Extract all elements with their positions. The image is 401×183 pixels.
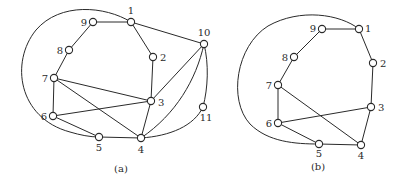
node-5 — [95, 133, 102, 140]
node-6 — [49, 112, 56, 119]
edge-10-11 — [203, 44, 207, 107]
node-3 — [367, 103, 374, 110]
node-label-11: 11 — [200, 112, 213, 123]
node-7 — [50, 74, 57, 81]
graph-panel-a: 1234567891011 (a) — [22, 5, 213, 174]
node-8 — [65, 46, 72, 53]
node-label-3: 3 — [158, 97, 164, 108]
edge-1-2 — [359, 29, 373, 63]
node-10 — [200, 40, 207, 47]
edges-b — [238, 15, 373, 145]
node-label-6: 6 — [41, 111, 47, 122]
node-label-2: 2 — [380, 58, 386, 69]
node-3 — [147, 97, 154, 104]
node-1 — [355, 25, 362, 32]
node-labels-b: 123456789 — [266, 23, 387, 161]
edge-1-10 — [131, 22, 204, 44]
nodes-a — [49, 18, 207, 141]
node-label-8: 8 — [57, 45, 63, 56]
node-label-5: 5 — [96, 142, 102, 153]
edge-3-4 — [141, 101, 151, 138]
edge-1-5 — [238, 15, 359, 144]
graph-figure: 1234567891011 (a) 123456789 (b) — [0, 0, 401, 183]
node-2 — [149, 53, 156, 60]
edge-6-3 — [53, 101, 151, 116]
edge-9-8 — [294, 29, 322, 57]
edge-6-3 — [278, 107, 371, 123]
node-label-1: 1 — [128, 5, 134, 16]
edge-7-4 — [278, 85, 361, 145]
edge-3-4 — [361, 107, 371, 145]
node-2 — [369, 59, 376, 66]
graph-panel-b: 123456789 (b) — [238, 15, 387, 172]
node-label-10: 10 — [198, 27, 211, 38]
node-label-4: 4 — [358, 150, 364, 161]
node-label-2: 2 — [160, 52, 166, 63]
nodes-b — [274, 25, 376, 148]
edge-5-4 — [319, 144, 361, 145]
edge-11-4 — [141, 107, 203, 138]
node-4 — [357, 141, 364, 148]
node-8 — [290, 53, 297, 60]
node-label-7: 7 — [266, 80, 272, 91]
edge-7-4 — [54, 78, 141, 138]
edges-a — [22, 9, 208, 138]
node-label-1: 1 — [365, 23, 371, 34]
node-label-6: 6 — [266, 118, 272, 129]
edge-7-6 — [53, 78, 54, 116]
node-11 — [199, 103, 206, 110]
node-5 — [315, 140, 322, 147]
edge-10-3 — [151, 44, 204, 101]
node-9 — [318, 25, 325, 32]
caption-a: (a) — [114, 163, 128, 174]
node-6 — [274, 119, 281, 126]
node-label-7: 7 — [42, 73, 48, 84]
node-label-9: 9 — [81, 17, 87, 28]
node-9 — [89, 18, 96, 25]
edge-2-3 — [371, 63, 373, 107]
edge-7-3 — [54, 78, 151, 101]
edge-1-5 — [22, 9, 131, 137]
edge-5-4 — [99, 137, 141, 138]
node-1 — [127, 18, 134, 25]
node-7 — [274, 81, 281, 88]
node-label-4: 4 — [138, 144, 144, 155]
node-label-9: 9 — [310, 23, 316, 34]
node-labels-a: 1234567891011 — [41, 5, 213, 155]
node-label-5: 5 — [316, 148, 322, 159]
node-label-3: 3 — [378, 102, 384, 113]
edge-2-3 — [151, 57, 153, 101]
node-4 — [137, 134, 144, 141]
node-label-8: 8 — [282, 52, 288, 63]
caption-b: (b) — [311, 161, 325, 172]
